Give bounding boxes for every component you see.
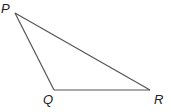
triangle-diagram: P Q R: [0, 0, 171, 112]
vertex-label-r: R: [154, 92, 163, 107]
edge-pr: [15, 13, 150, 90]
vertex-label-p: P: [1, 1, 10, 16]
vertex-label-q: Q: [43, 92, 53, 107]
